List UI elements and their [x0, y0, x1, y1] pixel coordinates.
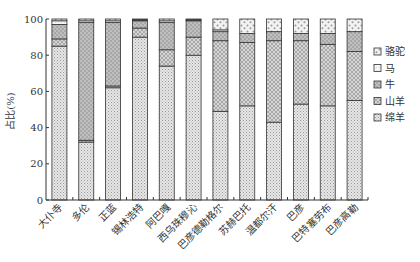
- legend-item: 牛: [374, 78, 395, 90]
- legend-label: 牛: [385, 78, 395, 90]
- bar-segment: [267, 122, 282, 200]
- bar-segment: [213, 19, 228, 30]
- bar-segment: [106, 19, 121, 21]
- y-tick-label: 80: [30, 50, 43, 61]
- legend-swatch-icon: [374, 98, 381, 105]
- legend-item: 绵羊: [374, 111, 405, 123]
- y-axis: 020406080100: [24, 14, 49, 206]
- bar-stack: [79, 19, 94, 200]
- bar-segment: [159, 23, 174, 50]
- bar-segment: [132, 37, 147, 200]
- bar-segment: [320, 19, 335, 33]
- bar-segment: [186, 19, 201, 20]
- bar-segment: [132, 28, 147, 37]
- bar-segment: [240, 19, 255, 33]
- bar-segment: [213, 41, 228, 112]
- bar-segment: [186, 55, 201, 200]
- bar-segment: [347, 100, 362, 200]
- bar-stack: [132, 19, 147, 200]
- bar-segment: [106, 88, 121, 200]
- bar-segment: [347, 19, 362, 32]
- bar-segment: [213, 32, 228, 41]
- bar-segment: [79, 142, 94, 200]
- bars-group: [52, 19, 362, 200]
- bar-stack: [293, 19, 308, 200]
- bar-stack: [186, 19, 201, 200]
- bar-segment: [267, 32, 282, 41]
- y-tick-label: 0: [37, 195, 43, 206]
- y-tick-label: 40: [30, 122, 43, 133]
- bar-segment: [52, 24, 67, 38]
- legend-label: 山羊: [385, 95, 405, 107]
- bar-segment: [320, 106, 335, 200]
- bar-segment: [240, 43, 255, 106]
- bar-segment: [240, 33, 255, 42]
- legend-label: 骆驼: [385, 45, 405, 57]
- bar-segment: [159, 50, 174, 66]
- x-category-label: 多伦: [69, 201, 92, 224]
- x-category-label: 巴彦: [284, 201, 307, 224]
- x-category-label: 正蓝: [97, 202, 119, 224]
- bar-segment: [186, 21, 201, 37]
- bar-segment: [52, 21, 67, 25]
- bar-segment: [159, 66, 174, 200]
- legend-swatch-icon: [374, 48, 381, 55]
- legend-swatch-icon: [374, 65, 381, 72]
- legend-label: 绵羊: [385, 111, 405, 123]
- bar-segment: [320, 33, 335, 44]
- legend-item: 山羊: [374, 95, 405, 107]
- bar-segment: [159, 19, 174, 21]
- bar-segment: [79, 23, 94, 141]
- bar-segment: [293, 19, 308, 33]
- bar-stack: [52, 19, 67, 200]
- bar-segment: [347, 52, 362, 101]
- bar-segment: [186, 37, 201, 55]
- bar-segment: [320, 44, 335, 106]
- bar-segment: [132, 19, 147, 20]
- bar-segment: [347, 32, 362, 52]
- x-axis: 大仆寺多伦正蓝锡林浩特阿巴嘎西乌珠穆沁巴彦德勒格尔苏赫巴托温都尔汗巴彦巴特塞劳布…: [35, 197, 368, 252]
- y-tick-label: 20: [30, 158, 43, 169]
- legend-item: 骆驼: [374, 45, 405, 57]
- x-category-label: 巴彦德勒格尔: [175, 201, 226, 252]
- bar-stack: [267, 19, 282, 200]
- legend-swatch-icon: [374, 81, 381, 88]
- bar-segment: [293, 104, 308, 200]
- legend-swatch-icon: [374, 114, 381, 121]
- bar-segment: [132, 21, 147, 28]
- legend-item: 马: [374, 63, 395, 74]
- bar-segment: [52, 19, 67, 21]
- bar-stack: [213, 19, 228, 200]
- bar-segment: [240, 106, 255, 200]
- y-axis-title: 占比(%): [4, 92, 16, 129]
- bar-segment: [293, 33, 308, 40]
- bar-stack: [159, 19, 174, 200]
- bar-segment: [213, 111, 228, 200]
- bar-segment: [52, 39, 67, 46]
- bar-segment: [52, 46, 67, 200]
- y-tick-label: 60: [30, 86, 43, 97]
- bar-segment: [79, 19, 94, 21]
- bar-segment: [293, 41, 308, 104]
- legend: 骆驼马牛山羊绵羊: [374, 45, 405, 123]
- bar-segment: [267, 19, 282, 32]
- bar-stack: [320, 19, 335, 200]
- y-tick-label: 100: [24, 14, 43, 25]
- bar-segment: [267, 41, 282, 122]
- stacked-bar-chart: 020406080100 大仆寺多伦正蓝锡林浩特阿巴嘎西乌珠穆沁巴彦德勒格尔苏赫…: [0, 0, 420, 262]
- bar-stack: [240, 19, 255, 200]
- bar-stack: [106, 19, 121, 200]
- legend-label: 马: [385, 63, 395, 74]
- bar-stack: [347, 19, 362, 200]
- bar-segment: [106, 23, 121, 86]
